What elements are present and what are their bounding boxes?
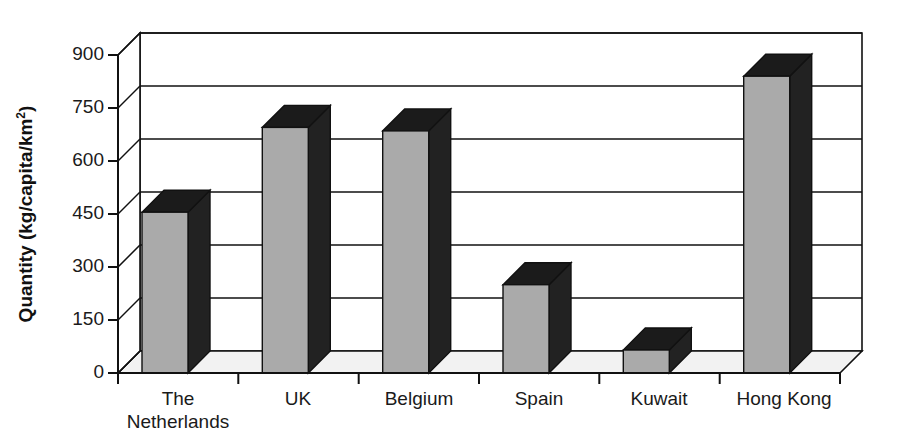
category-label-spain: Spain <box>515 388 564 409</box>
bar-uk[interactable] <box>262 105 330 373</box>
y-tick-label: 300 <box>72 255 104 276</box>
bar-spain[interactable] <box>503 263 571 373</box>
bar-front-face <box>744 76 790 373</box>
bar-side-face <box>429 109 451 373</box>
bar-belgium[interactable] <box>383 109 451 373</box>
y-axis-title: Quantity (kg/capita/km2) <box>14 106 36 323</box>
bar-front-face <box>262 127 308 373</box>
y-tick-label: 600 <box>72 149 104 170</box>
y-tick-label: 0 <box>93 361 104 382</box>
category-label-hong-kong: Hong Kong <box>736 388 831 409</box>
y-axis-ticks <box>108 55 118 373</box>
y-tick-label: 150 <box>72 308 104 329</box>
category-label-the-netherlands-line1: The <box>162 388 195 409</box>
category-label-the-netherlands-line2: Netherlands <box>127 411 229 432</box>
x-axis-ticks <box>118 373 840 384</box>
bar-front-face <box>383 131 429 373</box>
x-axis-category-labels: The Netherlands UK Belgium Spain Kuwait … <box>127 388 832 432</box>
y-axis-title-suffix: ) <box>15 106 36 112</box>
category-label-uk: UK <box>285 388 312 409</box>
bar-chart: 0 150 300 450 600 750 900 Quantity (kg/c… <box>0 0 904 446</box>
y-tick-label: 750 <box>72 96 104 117</box>
bar-front-face <box>623 350 669 373</box>
y-tick-label: 450 <box>72 202 104 223</box>
chart-svg: 0 150 300 450 600 750 900 Quantity (kg/c… <box>0 0 904 446</box>
y-tick-label: 900 <box>72 43 104 64</box>
category-label-belgium: Belgium <box>385 388 454 409</box>
category-label-kuwait: Kuwait <box>630 388 688 409</box>
bar-the-netherlands[interactable] <box>142 190 210 373</box>
bar-front-face <box>142 212 188 373</box>
bar-side-face <box>188 190 210 373</box>
bar-side-face <box>790 54 812 373</box>
bar-hong-kong[interactable] <box>744 54 812 373</box>
svg-text:Quantity (kg/capita/km2): Quantity (kg/capita/km2) <box>14 106 36 323</box>
bar-side-face <box>308 105 330 373</box>
bar-front-face <box>503 285 549 373</box>
y-axis-tick-labels: 0 150 300 450 600 750 900 <box>72 43 104 382</box>
y-axis-title-text: Quantity (kg/capita/km <box>15 119 36 323</box>
